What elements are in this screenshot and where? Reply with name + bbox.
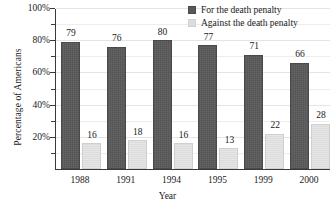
legend-swatch-dark-icon — [188, 6, 196, 14]
bar-value-label: 16 — [169, 131, 199, 141]
bar-group: 8016 — [153, 8, 193, 169]
bar[interactable] — [107, 47, 126, 169]
bar-value-label: 76 — [102, 34, 132, 44]
bar-chart: Percentage of Americans 20%40%60%80%100%… — [0, 0, 335, 208]
y-axis-tick-label: 100% — [16, 4, 50, 14]
legend-item-for[interactable]: For the death penalty — [188, 4, 298, 16]
legend-swatch-light-icon — [188, 19, 196, 27]
bar[interactable] — [311, 124, 330, 169]
bar[interactable] — [174, 143, 193, 169]
bar-group: 6628 — [290, 8, 330, 169]
bar-value-label: 28 — [306, 111, 335, 121]
legend-label-for: For the death penalty — [201, 5, 281, 15]
x-axis-line — [55, 169, 330, 170]
y-axis-tick-label: 20% — [16, 133, 50, 143]
bar-value-label: 66 — [285, 50, 315, 60]
bar[interactable] — [198, 45, 217, 169]
bar-value-label: 80 — [148, 28, 178, 38]
bar-value-label: 22 — [260, 121, 290, 131]
bar-value-label: 79 — [56, 29, 86, 39]
bar[interactable] — [153, 40, 172, 169]
bar[interactable] — [265, 134, 284, 169]
x-axis-title: Year — [0, 191, 335, 201]
bar[interactable] — [244, 55, 263, 169]
bar-value-label: 13 — [214, 136, 244, 146]
bar[interactable] — [82, 143, 101, 169]
bar[interactable] — [219, 148, 238, 169]
bar-group: 7713 — [198, 8, 238, 169]
y-axis-tick-label: 40% — [16, 101, 50, 111]
bar[interactable] — [61, 42, 80, 169]
legend: For the death penalty Against the death … — [188, 4, 298, 30]
bar[interactable] — [128, 140, 147, 169]
legend-label-against: Against the death penalty — [201, 18, 298, 28]
y-axis-tick-label: 60% — [16, 68, 50, 78]
bar-value-label: 18 — [123, 128, 153, 138]
plot-area: 791676188016771371226628 — [55, 9, 330, 170]
x-axis-tick-label: 2000 — [279, 175, 335, 185]
bar-group: 7122 — [244, 8, 284, 169]
y-axis-tick-label: 80% — [16, 36, 50, 46]
legend-item-against[interactable]: Against the death penalty — [188, 17, 298, 29]
bar-value-label: 16 — [77, 131, 107, 141]
bar-value-label: 71 — [239, 42, 269, 52]
bar-value-label: 77 — [193, 33, 223, 43]
bar-group: 7916 — [61, 8, 101, 169]
bar-group: 7618 — [107, 8, 147, 169]
